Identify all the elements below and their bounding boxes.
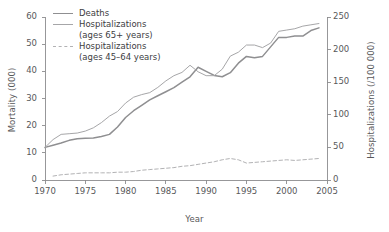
y-axis-left-tick-label: 10: [13, 147, 37, 157]
x-axis-tick-label: 1975: [65, 186, 105, 196]
x-axis-tick-label: 2000: [267, 186, 307, 196]
y-axis-left-tick-label: 30: [13, 93, 37, 103]
chart-figure: Mortality (000) Hospitalizations (/100 0…: [0, 0, 389, 232]
x-axis-tick-label: 1970: [25, 186, 65, 196]
y-axis-left-tick-label: 50: [13, 38, 37, 48]
x-axis-tick-label: 2005: [307, 186, 347, 196]
x-axis-tick-label: 1995: [226, 186, 266, 196]
series-line: [45, 24, 319, 148]
x-axis-tick-label: 1990: [186, 186, 226, 196]
y-axis-right-tick-label: 250: [333, 11, 359, 21]
y-axis-left-tick-label: 60: [13, 11, 37, 21]
y-axis-left-tick-label: 20: [13, 120, 37, 130]
y-axis-left-tick-label: 0: [13, 174, 37, 184]
y-axis-right-tick-label: 50: [333, 141, 359, 151]
y-axis-right-tick-label: 0: [333, 174, 359, 184]
series-line: [45, 28, 319, 148]
y-axis-right-tick-label: 150: [333, 76, 359, 86]
y-axis-right-tick-label: 200: [333, 44, 359, 54]
series-line: [53, 158, 319, 176]
chart-axes: [42, 17, 331, 184]
y-axis-right-tick-label: 100: [333, 109, 359, 119]
y-axis-left-tick-label: 40: [13, 65, 37, 75]
x-axis-tick-label: 1985: [146, 186, 186, 196]
chart-plot-area: [0, 0, 389, 232]
x-axis-tick-label: 1980: [106, 186, 146, 196]
chart-series: [45, 24, 319, 177]
